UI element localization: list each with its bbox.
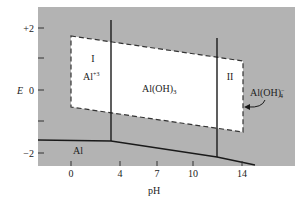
x-tick-label: 7 <box>155 168 160 179</box>
x-axis: 0 4 7 10 14 pH <box>69 161 248 196</box>
x-tick-label: 10 <box>188 168 198 179</box>
y-tick-label: 0 <box>29 85 34 96</box>
y-tick-label: −2 <box>23 148 34 159</box>
region-ii-label: II <box>227 71 234 82</box>
x-tick-label: 0 <box>69 168 74 179</box>
region-i-label: I <box>91 53 94 64</box>
x-tick-label: 4 <box>118 168 123 179</box>
x-axis-label: pH <box>148 185 160 196</box>
pourbaix-diagram: +2 0 −2 E 0 4 7 10 14 pH I Al+3 Al(OH)3 … <box>0 0 300 200</box>
y-tick-label: +2 <box>23 23 34 34</box>
x-tick-label: 14 <box>237 168 247 179</box>
y-axis-label: E <box>16 85 23 96</box>
al-metal-label: Al <box>73 145 83 156</box>
